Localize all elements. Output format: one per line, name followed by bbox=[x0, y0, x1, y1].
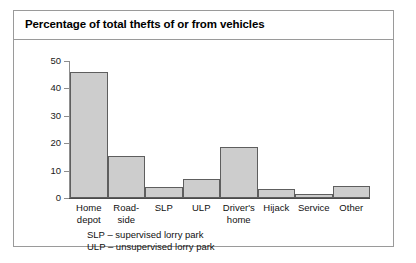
y-axis-tick: 40 bbox=[14, 88, 69, 89]
y-axis-tick-label: 30 bbox=[50, 110, 61, 121]
x-axis-line bbox=[69, 198, 370, 199]
chart-footnotes: SLP – supervised lorry parkULP – unsuper… bbox=[87, 229, 215, 253]
plot-area: 01020304050 HomedepotRoad-sideSLPULPDriv… bbox=[14, 40, 393, 246]
x-axis-category-label: Other bbox=[327, 202, 377, 214]
chart-figure: Percentage of total thefts of or from ve… bbox=[13, 10, 394, 247]
bar bbox=[145, 187, 183, 198]
y-axis-tick-label: 20 bbox=[50, 137, 61, 148]
bar-series bbox=[70, 61, 370, 198]
y-axis-tick: 50 bbox=[14, 61, 69, 62]
x-axis-category-labels: HomedepotRoad-sideSLPULPDriver'shomeHija… bbox=[70, 202, 370, 232]
bar bbox=[333, 186, 371, 198]
chart-footnote: SLP – supervised lorry park bbox=[87, 229, 215, 241]
y-axis-tick: 10 bbox=[14, 171, 69, 172]
bar bbox=[183, 179, 221, 198]
bar bbox=[220, 147, 258, 198]
x-axis-category-label-line: side bbox=[102, 214, 152, 226]
y-axis-tick: 30 bbox=[14, 116, 69, 117]
bar bbox=[70, 72, 108, 198]
y-axis-tick-label: 0 bbox=[56, 192, 61, 203]
y-axis-tick: 20 bbox=[14, 143, 69, 144]
y-axis-tick-label: 10 bbox=[50, 165, 61, 176]
y-axis-tick-label: 50 bbox=[50, 55, 61, 66]
bar bbox=[258, 189, 296, 198]
x-axis-category-label-line: home bbox=[214, 214, 264, 226]
y-axis-tick-label: 40 bbox=[50, 82, 61, 93]
page-title: Percentage of total thefts of or from ve… bbox=[25, 18, 265, 30]
bar bbox=[295, 194, 333, 198]
y-axis-tick: 0 bbox=[14, 198, 69, 199]
chart-footnote: ULP – unsupervised lorry park bbox=[87, 241, 215, 253]
x-axis-category-label-line: Other bbox=[327, 202, 377, 214]
bar bbox=[108, 156, 146, 198]
chart-title-band: Percentage of total thefts of or from ve… bbox=[14, 11, 393, 40]
